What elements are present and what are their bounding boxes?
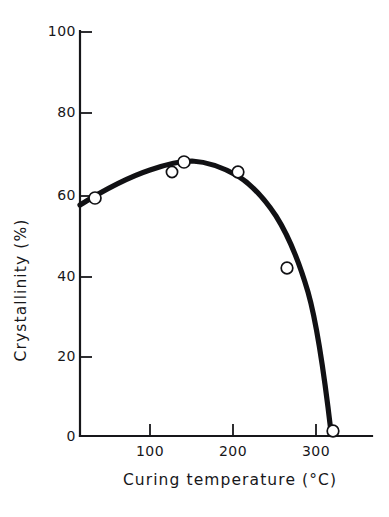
y-tick-label-20: 20 [46,348,76,364]
x-tick-label-300: 300 [296,443,336,459]
data-point-4 [232,166,244,178]
data-point-6 [327,425,339,437]
x-tick-label-200: 200 [213,443,253,459]
y-tick-label-100: 100 [46,23,76,39]
data-point-5 [281,262,293,274]
data-markers [89,156,339,437]
data-point-3 [178,156,190,168]
x-tick-label-100: 100 [130,443,170,459]
y-tick-label-40: 40 [46,268,76,284]
data-point-2 [166,166,177,177]
x-axis-ticks [150,424,316,436]
y-tick-label-0: 0 [46,428,76,444]
data-point-1 [89,192,101,204]
data-curve [80,161,331,432]
y-axis-title: Crystallinity (%) [12,219,30,362]
y-tick-label-80: 80 [46,104,76,120]
x-axis-title: Curing temperature (°C) [123,471,337,489]
y-tick-label-60: 60 [46,187,76,203]
chart-figure: Crystallinity (%) Curing temperature (°C… [0,0,389,517]
